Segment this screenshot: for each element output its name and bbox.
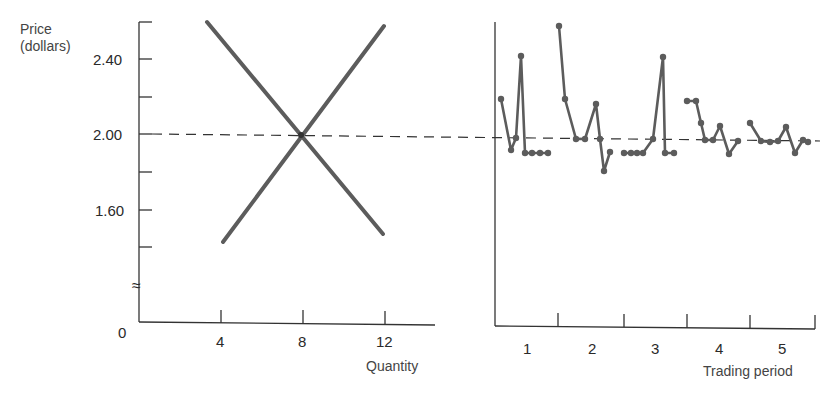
right-x-axis (495, 326, 815, 329)
transaction-point (573, 136, 579, 142)
transaction-point (783, 124, 789, 130)
transaction-point (747, 120, 753, 126)
transaction-point (545, 150, 551, 156)
x-tick-label-8: 8 (298, 334, 306, 349)
transaction-point (702, 137, 708, 143)
transaction-point (735, 138, 741, 144)
transaction-point (660, 54, 666, 60)
price-line (501, 56, 548, 153)
demand-curve (207, 22, 383, 234)
transaction-point (582, 136, 588, 142)
x-axis-title-trading-period: Trading period (703, 364, 793, 378)
transaction-point (628, 150, 634, 156)
transaction-point (662, 150, 668, 156)
period-5-price-path (747, 120, 811, 156)
axis-break-symbol: ≈ (132, 278, 141, 294)
y-axis-title: Price (dollars) (20, 21, 71, 55)
price-line (687, 101, 738, 154)
transaction-point (726, 151, 732, 157)
transaction-point (717, 123, 723, 129)
x-tick-label-12: 12 (376, 334, 393, 349)
transaction-point (767, 139, 773, 145)
period-label-2: 2 (588, 341, 596, 356)
left-x-ticks (221, 310, 385, 324)
transaction-point (562, 96, 568, 102)
transaction-point (805, 139, 811, 145)
transaction-point (537, 150, 543, 156)
right-panel-axes (495, 22, 815, 329)
x-tick-label-4: 4 (216, 334, 224, 349)
transaction-point (522, 150, 528, 156)
x-axis-title-quantity: Quantity (366, 359, 418, 373)
period-4-price-path (684, 98, 741, 157)
transaction-point (693, 98, 699, 104)
transaction-point (518, 53, 524, 59)
equilibrium-price-dashed-line (152, 134, 820, 141)
period-3-price-path (621, 54, 677, 156)
transaction-point (650, 136, 656, 142)
transaction-point (621, 150, 627, 156)
transaction-point (607, 149, 613, 155)
transaction-point (684, 98, 690, 104)
transaction-point (758, 138, 764, 144)
transaction-point (556, 23, 562, 29)
transaction-point (498, 96, 504, 102)
period-label-1: 1 (523, 341, 531, 356)
period-1-price-path (498, 53, 551, 156)
transaction-point (640, 150, 646, 156)
transaction-point (529, 150, 535, 156)
transaction-point (508, 147, 514, 153)
transaction-point (513, 135, 519, 141)
period-label-5: 5 (778, 341, 786, 356)
transaction-point (593, 101, 599, 107)
transaction-point (710, 137, 716, 143)
supply-demand-curves (207, 22, 384, 242)
equilibrium-point (298, 132, 304, 138)
y-axis-title-line1: Price (20, 21, 71, 38)
y-tick-label-2-00: 2.00 (93, 127, 122, 142)
transaction-point (792, 150, 798, 156)
left-y-ticks (139, 59, 152, 247)
y-origin-label: 0 (118, 325, 126, 340)
transaction-point (775, 138, 781, 144)
left-panel-axes (139, 22, 435, 325)
transaction-point (698, 120, 704, 126)
trading-price-series (498, 23, 811, 174)
period-label-4: 4 (715, 341, 723, 356)
y-tick-label-2-40: 2.40 (93, 52, 122, 67)
period-2-price-path (556, 23, 613, 174)
transaction-point (671, 150, 677, 156)
left-x-axis (139, 322, 435, 325)
y-axis-title-line2: (dollars) (20, 38, 71, 55)
transaction-point (634, 150, 640, 156)
transaction-point (597, 136, 603, 142)
transaction-point (601, 168, 607, 174)
period-label-3: 3 (651, 341, 659, 356)
y-tick-label-1-60: 1.60 (95, 203, 124, 218)
